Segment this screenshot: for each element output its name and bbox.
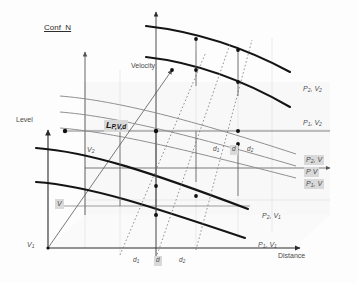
curve-label-p1v2: P1, V2 <box>303 119 322 127</box>
curve-label-p1v1: P1, V1 <box>258 241 277 249</box>
inner-mark-d: d <box>230 145 238 155</box>
distance-tick-d: d <box>154 256 162 266</box>
curve-label-p2v: P2, V <box>304 155 324 165</box>
diagram-canvas: Conf_N Level Distance Velocity V1 LP,V,d… <box>0 0 358 283</box>
curve-label-p2v2: P2, V2 <box>303 85 322 93</box>
curve-label-p2v1: P2, V1 <box>262 212 281 220</box>
back-plane-shading <box>48 82 330 248</box>
axis-label-velocity: Velocity <box>131 62 155 69</box>
velocity-mark-v2: V2 <box>87 146 94 154</box>
axis-label-distance: Distance <box>278 252 305 259</box>
curve-label-pv: P V <box>304 167 319 177</box>
origin-velocity-label: V1 <box>27 241 34 249</box>
inner-mark-d2: d2 <box>247 146 253 154</box>
inner-mark-d1: d1 <box>213 146 219 154</box>
distance-tick-d2: d2 <box>179 257 185 265</box>
center-level-label: LP,V,d <box>104 120 128 132</box>
curve-label-p1v: P1, V <box>304 179 324 189</box>
diagram-vector-layer <box>0 0 358 283</box>
axis-label-level: Level <box>16 116 33 123</box>
curve-p2v2 <box>146 26 290 72</box>
figure-title: Conf_N <box>44 24 71 32</box>
velocity-mark-v: V <box>55 199 64 209</box>
distance-tick-d1: d1 <box>133 257 139 265</box>
